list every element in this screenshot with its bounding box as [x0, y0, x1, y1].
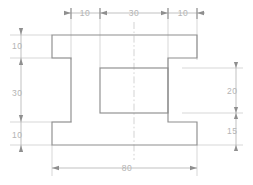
- right-dimension-chain: 20 15: [227, 62, 238, 151]
- dim-right-2: 15: [227, 126, 237, 136]
- left-dimension-chain: 10 30 10: [12, 28, 23, 152]
- bottom-overall-dimension: 80: [52, 163, 197, 173]
- part-outline: [52, 35, 197, 145]
- dim-left-3: 10: [12, 130, 22, 140]
- top-dimension-chain: 10 30 10: [64, 8, 205, 19]
- drawing-svg: 10 30 10 10 30 10: [0, 0, 253, 185]
- dim-bottom-overall: 80: [122, 163, 132, 173]
- extension-lines: [10, 8, 243, 176]
- dim-top-2: 30: [129, 8, 139, 18]
- dim-right-1: 20: [227, 86, 237, 96]
- engineering-drawing-canvas: 10 30 10 10 30 10: [0, 0, 253, 185]
- dim-top-1: 10: [80, 8, 90, 18]
- dim-left-2: 30: [12, 88, 22, 98]
- dim-left-1: 10: [12, 41, 22, 51]
- dim-top-3: 10: [178, 8, 188, 18]
